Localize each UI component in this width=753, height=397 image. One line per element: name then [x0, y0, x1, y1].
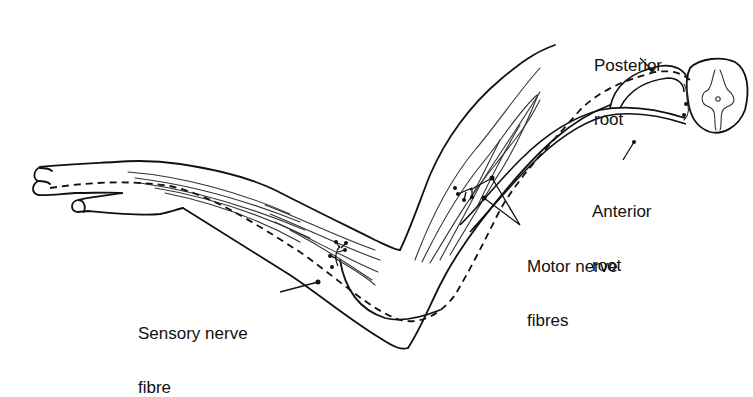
- posterior-root-label-line1: Posterior: [594, 57, 662, 75]
- sensory-nerve-fibre-label: Sensory nerve fibre: [138, 289, 248, 397]
- arm-outline: [33, 45, 610, 349]
- motor-nerve-fibres-label-line1: Motor nerve: [527, 258, 618, 276]
- posterior-root-label-line2: root: [594, 111, 662, 129]
- motor-nerve-fibres-label: Motor nerve fibres: [527, 222, 618, 348]
- spinal-cord-section: [682, 59, 748, 133]
- sensory-nerve-fibre-label-line2: fibre: [138, 379, 248, 397]
- anterior-root-label-line1: Anterior: [592, 203, 652, 221]
- motor-fibres-leader: [484, 178, 520, 225]
- posterior-root-label: Posterior root: [594, 21, 662, 147]
- motor-nerve-fibres-label-line2: fibres: [527, 312, 618, 330]
- sensory-nerve-fibre-label-line1: Sensory nerve: [138, 325, 248, 343]
